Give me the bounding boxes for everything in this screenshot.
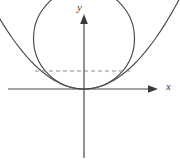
y-axis (80, 14, 88, 158)
up-arrow-icon (80, 14, 88, 24)
graph-figure: x y (0, 0, 180, 164)
right-arrow-icon (148, 85, 158, 93)
x-axis-label: x (165, 80, 171, 92)
y-axis-label: y (76, 1, 82, 13)
coordinate-plane-svg: x y (0, 0, 180, 164)
parabola-curve (0, 0, 180, 89)
